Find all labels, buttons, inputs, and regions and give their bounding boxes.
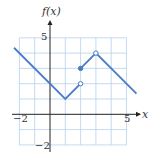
function-graph: f(x) x −2 5 5 −2	[0, 0, 160, 157]
x-tick-label-neg2: −2	[13, 113, 28, 124]
y-axis-arrow-icon	[48, 20, 53, 25]
curve-segment-2	[81, 53, 137, 94]
y-axis-label: f(x)	[41, 5, 61, 18]
closed-dot-point	[78, 66, 82, 70]
y-tick-label-neg2: −2	[35, 140, 50, 151]
function-curve	[14, 48, 136, 99]
y-tick-label-5: 5	[41, 31, 47, 42]
x-tick-label-5: 5	[124, 113, 130, 124]
open-circle-point	[94, 51, 98, 55]
open-circle-point	[78, 82, 82, 86]
curve-segment-1	[14, 48, 81, 99]
axes	[12, 20, 141, 152]
x-axis-label: x	[142, 108, 149, 121]
x-axis-arrow-icon	[136, 112, 141, 117]
